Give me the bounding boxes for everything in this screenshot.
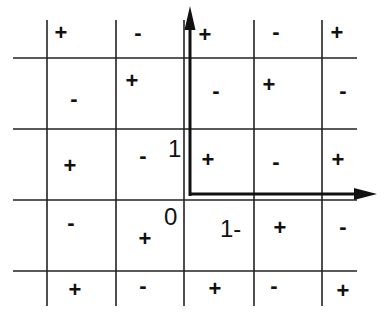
x-axis-arrowhead-icon xyxy=(354,188,377,200)
y-axis-arrowhead-icon xyxy=(185,6,196,30)
minus-sign: - xyxy=(339,78,346,103)
plus-sign: + xyxy=(263,72,276,97)
plus-sign: + xyxy=(64,153,77,178)
plus-sign: + xyxy=(199,22,212,47)
origin-label: 0 xyxy=(164,203,177,230)
minus-sign: - xyxy=(272,149,279,174)
plus-sign: + xyxy=(202,147,215,172)
minus-sign: - xyxy=(134,20,141,45)
diagram-canvas: +-+-+-+-+-+-+-+-++-+-+-+ 1 0 1- xyxy=(0,0,388,320)
plus-sign: + xyxy=(331,20,344,45)
minus-sign: - xyxy=(270,273,277,298)
plus-sign: + xyxy=(55,20,68,45)
minus-sign: - xyxy=(339,214,346,239)
plus-sign: + xyxy=(337,278,350,303)
plus-sign: + xyxy=(209,276,222,301)
minus-sign: - xyxy=(67,210,74,235)
x-unit-label: 1- xyxy=(220,215,241,242)
minus-sign: - xyxy=(272,19,279,44)
minus-sign: - xyxy=(212,78,219,103)
minus-sign: - xyxy=(70,86,77,111)
plus-sign: + xyxy=(274,215,287,240)
y-unit-label: 1 xyxy=(168,135,181,162)
plus-sign: + xyxy=(139,226,152,251)
minus-sign: - xyxy=(139,273,146,298)
plus-sign: + xyxy=(69,277,82,302)
minus-sign: - xyxy=(139,143,146,168)
sign-grid-diagram: +-+-+-+-+-+-+-+-++-+-+-+ 1 0 1- xyxy=(0,0,388,320)
plus-sign: + xyxy=(126,68,139,93)
plus-sign: + xyxy=(332,147,345,172)
sign-marks: +-+-+-+-+-+-+-+-++-+-+-+ xyxy=(55,19,350,303)
